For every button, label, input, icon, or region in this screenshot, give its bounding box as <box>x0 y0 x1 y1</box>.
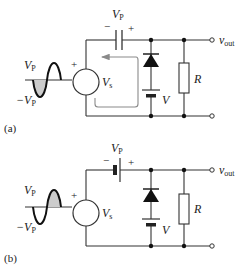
ac-source-a <box>73 69 99 95</box>
source-plus-sign: + <box>71 58 77 70</box>
wave-neg-vp-label: −VP <box>16 93 36 108</box>
diode-icon <box>143 54 159 67</box>
series-battery-symbol <box>113 158 120 182</box>
junction-dot <box>182 114 186 118</box>
battery-v-label: V <box>162 223 171 237</box>
battery-short-plate <box>146 94 156 98</box>
output-terminal-bottom <box>210 244 214 248</box>
diode-icon <box>143 189 159 202</box>
wave-neg-vp-label: −VP <box>16 220 36 235</box>
resistor-r-label: R <box>193 202 202 216</box>
battery-plus-sign: + <box>128 156 134 168</box>
resistor-icon <box>179 194 189 224</box>
clamper-circuit-figure: VP −VP + Vs VP − + V <box>0 0 248 278</box>
source-plus-sign: + <box>71 189 77 201</box>
source-vs-label: Vs <box>102 75 112 90</box>
output-terminal-top <box>210 38 214 42</box>
capacitor-plus-sign: + <box>128 22 134 34</box>
resistor-r-label: R <box>193 72 202 86</box>
vout-label: vout <box>219 33 235 48</box>
junction-dot <box>149 244 153 248</box>
junction-dot <box>182 38 186 42</box>
panel-a-caption: (a) <box>4 122 17 135</box>
capacitor-vp-label: VP <box>112 7 124 22</box>
battery-minus-sign: − <box>103 154 109 166</box>
battery-v-label: V <box>162 93 171 107</box>
capacitor-minus-sign: − <box>104 20 110 32</box>
input-waveform-b: VP −VP <box>16 183 72 235</box>
ac-source-b <box>73 200 99 226</box>
output-terminal-bottom <box>210 114 214 118</box>
junction-dot <box>149 168 153 172</box>
panel-a: VP −VP + Vs VP − + V <box>4 7 235 135</box>
output-terminal-top <box>210 168 214 172</box>
junction-dot <box>149 114 153 118</box>
battery-short-plate <box>146 223 156 227</box>
panel-b: VP −VP + Vs VP − + V R <box>4 141 235 265</box>
resistor-icon <box>179 63 189 93</box>
junction-dot <box>149 38 153 42</box>
wave-vp-label: VP <box>24 58 36 73</box>
panel-b-caption: (b) <box>4 252 17 265</box>
source-vs-label: Vs <box>102 206 112 221</box>
junction-dot <box>182 168 186 172</box>
battery-vp-label: VP <box>111 141 123 156</box>
vout-label: vout <box>219 163 235 178</box>
wave-vp-label: VP <box>24 183 36 198</box>
capacitor-symbol <box>116 30 122 50</box>
input-waveform-a: VP −VP <box>16 58 72 108</box>
junction-dot <box>182 244 186 248</box>
